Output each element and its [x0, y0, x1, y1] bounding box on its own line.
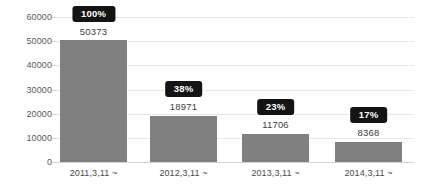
percent-badge-2011: 100%	[72, 6, 115, 22]
percent-badge-2012: 38%	[165, 81, 203, 97]
bar-2013[interactable]	[242, 134, 309, 162]
y-axis-labels: 60000 50000 40000 30000 20000 10000 0	[0, 17, 52, 162]
value-label-2014: 8368	[358, 127, 380, 138]
value-label-2012: 18971	[170, 101, 197, 112]
axis-baseline	[57, 162, 414, 163]
value-label-2013: 11706	[262, 119, 289, 130]
y-tick-label-20000: 20000	[0, 109, 52, 119]
y-tick-label-50000: 50000	[0, 36, 52, 46]
x-axis-label-2013: 2013,3,11 ~	[251, 168, 299, 178]
y-tick-label-60000: 60000	[0, 12, 52, 22]
y-tick-label-10000: 10000	[0, 133, 52, 143]
x-axis-label-2014: 2014,3,11 ~	[344, 168, 392, 178]
bar-2012[interactable]	[150, 116, 217, 162]
bar-chart: 60000 50000 40000 30000 20000 10000 0 10…	[0, 0, 424, 188]
bar-2014[interactable]	[335, 142, 402, 162]
plot-area	[57, 17, 414, 162]
y-tick-label-0: 0	[0, 157, 52, 167]
y-tick-label-30000: 30000	[0, 85, 52, 95]
value-label-2011: 50373	[80, 26, 107, 37]
bar-2011[interactable]	[60, 40, 127, 162]
y-tick-label-40000: 40000	[0, 60, 52, 70]
x-axis-label-2012: 2012,3,11 ~	[159, 168, 207, 178]
percent-badge-2014: 17%	[350, 107, 388, 123]
x-axis-label-2011: 2011,3,11 ~	[70, 168, 118, 178]
percent-badge-2013: 23%	[257, 99, 295, 115]
